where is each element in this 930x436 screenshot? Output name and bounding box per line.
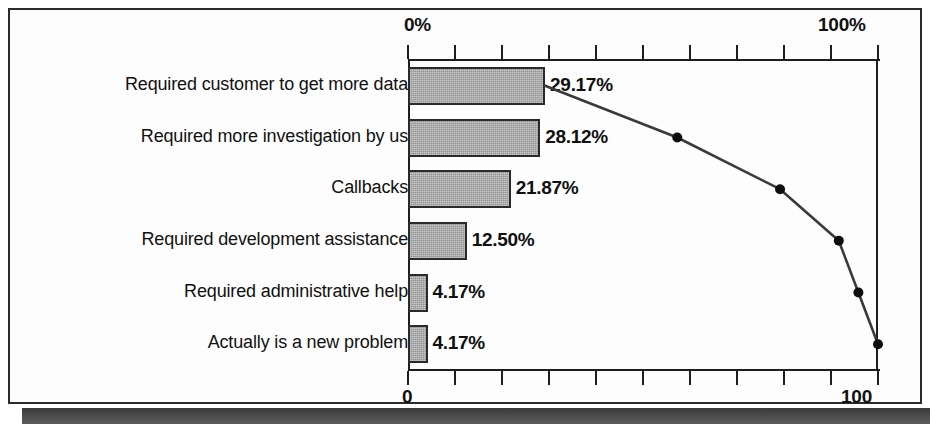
pareto-chart-figure: 0% 100% 0 100 Required customer to get m…	[0, 0, 930, 436]
category-label-list: Required customer to get more dataRequir…	[8, 0, 408, 436]
axis-bottom-tick	[783, 371, 785, 385]
axis-bottom-tick	[454, 371, 456, 385]
category-label: Required more investigation by us	[16, 126, 408, 147]
scan-bottom-margin	[22, 424, 930, 436]
cumulative-line	[545, 86, 878, 344]
scan-shadow-strip	[22, 408, 930, 424]
axis-top-tick	[548, 45, 550, 59]
category-label: Required customer to get more data	[16, 74, 408, 95]
category-label: Required development assistance	[16, 229, 408, 250]
axis-bottom-tick	[877, 371, 879, 385]
cumulative-point-marker	[775, 184, 785, 194]
axis-top-tick	[783, 45, 785, 59]
category-label: Callbacks	[16, 177, 408, 198]
cumulative-line-chart	[408, 60, 880, 370]
axis-top-min-label: 0%	[404, 14, 431, 36]
cumulative-point-marker	[672, 133, 682, 143]
cumulative-point-marker	[873, 339, 883, 349]
axis-bottom-tick	[830, 371, 832, 385]
axis-top-max-label: 100%	[818, 14, 866, 36]
axis-top-tick	[877, 45, 879, 59]
axis-bottom-tick	[595, 371, 597, 385]
axis-bottom-tick	[548, 371, 550, 385]
axis-top-tick	[689, 45, 691, 59]
axis-top-tick	[501, 45, 503, 59]
cumulative-point-marker	[853, 288, 863, 298]
category-label: Actually is a new problem	[16, 332, 408, 353]
cumulative-point-marker	[834, 236, 844, 246]
axis-top-tick	[830, 45, 832, 59]
axis-top-tick	[454, 45, 456, 59]
axis-top-tick	[736, 45, 738, 59]
axis-bottom-tick	[642, 371, 644, 385]
category-label: Required administrative help	[16, 281, 408, 302]
axis-top-tick	[595, 45, 597, 59]
axis-bottom-tick	[501, 371, 503, 385]
axis-top-tick	[642, 45, 644, 59]
axis-bottom-max-label: 100	[841, 386, 872, 408]
axis-bottom-tick	[736, 371, 738, 385]
axis-bottom-tick	[689, 371, 691, 385]
